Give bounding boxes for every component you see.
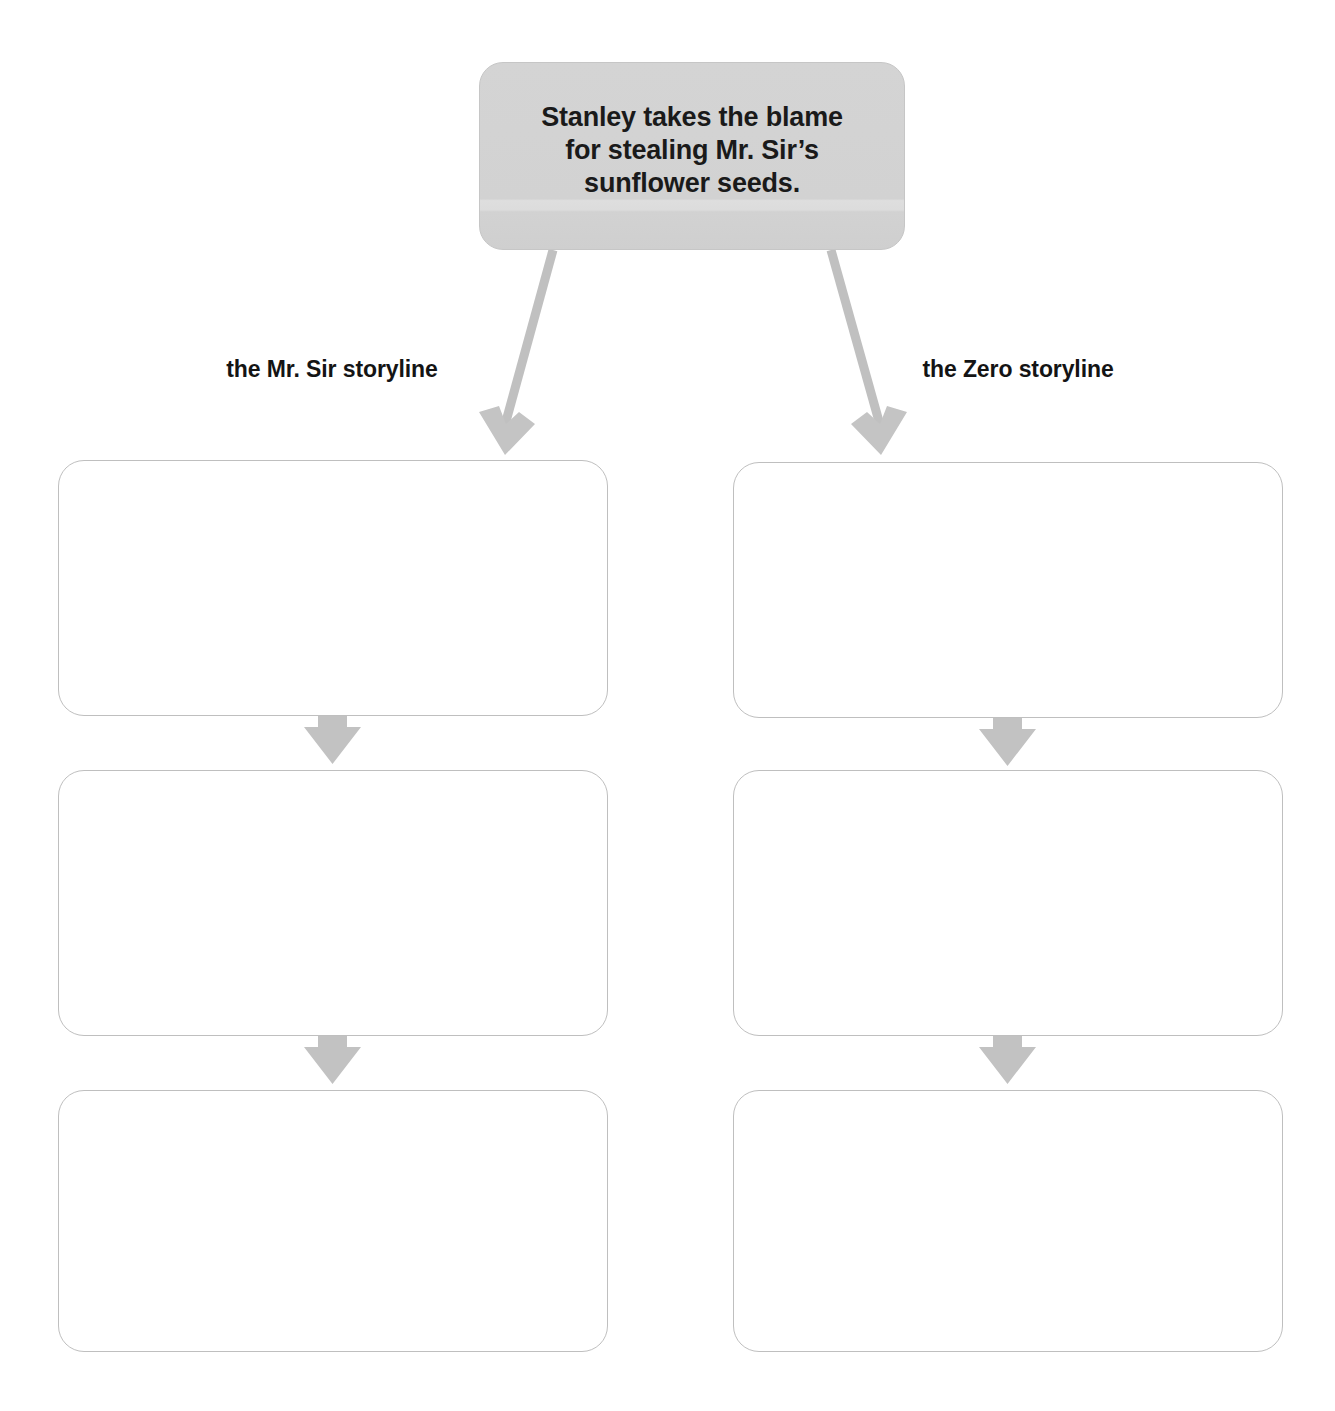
answer-box-zero-3[interactable] xyxy=(733,1090,1283,1352)
flow-arrow-left-1-icon xyxy=(304,714,361,764)
answer-box-mr-sir-2[interactable] xyxy=(58,770,608,1036)
column-caption-zero: the Zero storyline xyxy=(888,355,1148,385)
graphic-organizer-page: Stanley takes the blame for stealing Mr.… xyxy=(0,0,1335,1411)
flow-arrow-left-2-icon xyxy=(304,1034,361,1084)
answer-box-zero-1[interactable] xyxy=(733,462,1283,718)
answer-box-mr-sir-1[interactable] xyxy=(58,460,608,716)
flow-arrow-right-2-icon xyxy=(979,1034,1036,1084)
prompt-text: Stanley takes the blame for stealing Mr.… xyxy=(522,101,862,200)
answer-box-mr-sir-3[interactable] xyxy=(58,1090,608,1352)
branch-arrow-right-icon xyxy=(831,250,907,455)
column-caption-mr-sir: the Mr. Sir storyline xyxy=(202,355,462,385)
flow-arrow-right-1-icon xyxy=(979,716,1036,766)
branch-arrow-left-icon xyxy=(479,250,553,455)
prompt-box: Stanley takes the blame for stealing Mr.… xyxy=(479,62,905,250)
answer-box-zero-2[interactable] xyxy=(733,770,1283,1036)
